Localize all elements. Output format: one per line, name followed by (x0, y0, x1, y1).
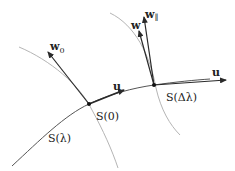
label-u-at-s0: u (113, 80, 121, 93)
point-sdl (152, 83, 156, 87)
label-w-parallel: w∥ (144, 8, 158, 22)
transversal-curve-at-s0 (19, 47, 118, 168)
label-u-at-sdl: u (212, 66, 220, 79)
label-w: w (130, 19, 141, 32)
vector-w-parallel (144, 17, 154, 85)
point-s0 (87, 102, 91, 106)
label-sdl: S(Δλ) (166, 91, 197, 104)
label-s0: S(0) (96, 110, 119, 123)
label-w0: w0 (49, 40, 65, 55)
vector-w (139, 31, 154, 85)
diagram-svg: w0 u S(0) S(λ) w w∥ u S(Δλ) (0, 0, 235, 171)
transversal-curve-at-sdl (110, 13, 180, 135)
label-s-lambda: S(λ) (48, 132, 71, 145)
vector-w0 (48, 52, 89, 104)
parallel-transport-diagram: w0 u S(0) S(λ) w w∥ u S(Δλ) (0, 0, 235, 171)
